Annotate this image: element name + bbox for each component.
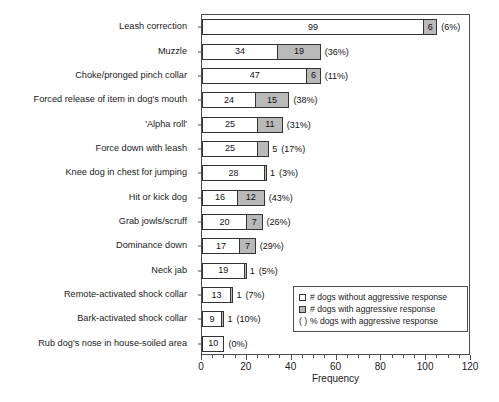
bar-value-aggression: 7 [252, 218, 257, 227]
x-axis-tick-minor [448, 355, 449, 358]
x-axis-tick-label: 40 [285, 361, 296, 372]
category-label: Muzzle [158, 45, 187, 56]
bar-percent-label: (31%) [283, 117, 311, 133]
white-square-icon [299, 294, 306, 301]
bar-segment-no-aggression: 99 [202, 19, 424, 35]
bar-value-no-aggression: 99 [308, 23, 318, 32]
category-label: Force down with leash [96, 142, 187, 153]
x-axis-tick-minor [279, 355, 280, 358]
bar-value-aggression: 1 [247, 263, 255, 279]
bar-percent-label: (6%) [437, 19, 460, 35]
bar-value-no-aggression: 20 [219, 218, 229, 227]
bar-segment-aggression: 7 [246, 214, 263, 230]
legend-item-no-aggression: # dogs without aggressive response [299, 291, 462, 303]
x-axis-tick-minor [324, 355, 325, 358]
x-axis-tick-minor [302, 355, 303, 358]
x-axis-tick-minor [369, 355, 370, 358]
bar-segment-no-aggression: 25 [202, 117, 258, 133]
bar-row: 2511(31%) [202, 117, 311, 133]
legend-label: # dogs with aggressive response [310, 303, 435, 315]
bar-row: 207(26%) [202, 214, 291, 230]
bar-value-aggression: 1 [233, 287, 241, 303]
x-axis-tick-minor [436, 355, 437, 358]
bar-segment-no-aggression: 16 [202, 190, 238, 206]
x-axis-tick-minor [313, 355, 314, 358]
bar-row: 177(29%) [202, 238, 284, 254]
bar-value-aggression: 6 [311, 71, 316, 80]
bar-percent-label: (10%) [232, 311, 260, 327]
bar-percent-label: (11%) [321, 68, 348, 84]
bar-row: 2415(38%) [202, 92, 317, 108]
bar-value-no-aggression: 25 [225, 144, 235, 153]
category-label: Choke/pronged pinch collar [75, 69, 187, 80]
bar-row: 131(7%) [202, 287, 264, 303]
x-axis-tick-minor [212, 355, 213, 358]
category-label: Rub dog's nose in house-soiled area [38, 337, 187, 348]
x-axis: 020406080100120 [201, 355, 470, 356]
x-axis-tick-minor [235, 355, 236, 358]
bar-percent-label: (36%) [321, 44, 349, 60]
bar-value-no-aggression: 9 [210, 315, 215, 324]
x-axis-tick-major [425, 355, 426, 360]
x-axis-tick-minor [268, 355, 269, 358]
category-label: Grab jowls/scruff [119, 216, 187, 227]
x-axis-tick-label: 100 [417, 361, 434, 372]
x-axis-tick-minor [347, 355, 348, 358]
x-axis-tick-label: 120 [462, 361, 479, 372]
x-axis-tick-label: 60 [330, 361, 341, 372]
x-axis-tick-major [336, 355, 337, 360]
bar-segment-aggression: 11 [257, 117, 283, 133]
bar-segment-no-aggression: 10 [202, 336, 224, 352]
bar-percent-label: (5%) [255, 263, 278, 279]
bar-percent-label: (3%) [275, 165, 298, 181]
bar-segment-no-aggression: 13 [202, 287, 231, 303]
bar-value-no-aggression: 24 [224, 96, 234, 105]
bar-segment-aggression: 12 [237, 190, 265, 206]
bar-percent-label: (17%) [277, 141, 305, 157]
bar-segment-aggression: 6 [423, 19, 437, 35]
bar-segment-aggression: 15 [255, 92, 290, 108]
category-label: Remote-activated shock collar [64, 289, 187, 300]
bar-value-aggression: 7 [245, 242, 250, 251]
bar-segment-aggression [257, 141, 269, 157]
bar-row: 255(17%) [202, 141, 305, 157]
bar-value-no-aggression: 34 [235, 47, 245, 56]
bar-segment-no-aggression: 28 [202, 165, 265, 181]
bar-segment-no-aggression: 20 [202, 214, 247, 230]
bar-segment-aggression: 7 [239, 238, 256, 254]
bar-segment-no-aggression: 9 [202, 311, 222, 327]
bar-value-aggression: 1 [224, 311, 232, 327]
x-axis-tick-label: 0 [198, 361, 204, 372]
category-label: Dominance down [116, 240, 187, 251]
bar-value-aggression: 1 [267, 165, 275, 181]
bar-value-no-aggression: 19 [218, 266, 228, 275]
bar-segment-no-aggression: 19 [202, 263, 245, 279]
chart-legend: # dogs without aggressive response # dog… [293, 286, 468, 332]
bar-row: 996(6%) [202, 19, 460, 35]
bar-segment-no-aggression: 47 [202, 68, 307, 84]
category-label: Bark-activated shock collar [77, 313, 187, 324]
bar-row: 3419(36%) [202, 44, 349, 60]
category-label: Hit or kick dog [129, 191, 187, 202]
category-label: Leash correction [119, 21, 187, 32]
bar-row: 191(5%) [202, 263, 278, 279]
category-axis-labels: Leash correctionMuzzleChoke/pronged pinc… [0, 0, 194, 402]
bar-row: 476(11%) [202, 68, 348, 84]
x-axis-tick-major [380, 355, 381, 360]
bar-row: 10(0%) [202, 336, 247, 352]
bar-value-no-aggression: 47 [250, 71, 260, 80]
category-label: 'Alpha roll' [145, 118, 187, 129]
x-axis-tick-minor [403, 355, 404, 358]
bar-percent-label: (26%) [263, 214, 291, 230]
bar-value-aggression: 15 [267, 96, 277, 105]
x-axis-tick-minor [223, 355, 224, 358]
bar-value-no-aggression: 16 [215, 193, 225, 202]
bar-chart: Leash correctionMuzzleChoke/pronged pinc… [0, 0, 499, 402]
legend-label: % dogs with aggressive response [310, 315, 438, 327]
bar-row: 1612(43%) [202, 190, 293, 206]
bar-value-no-aggression: 13 [212, 291, 222, 300]
bar-percent-label: (7%) [241, 287, 264, 303]
category-label: Knee dog in chest for jumping [65, 167, 187, 178]
x-axis-tick-major [201, 355, 202, 360]
parentheses-icon: ( ) [299, 318, 306, 325]
